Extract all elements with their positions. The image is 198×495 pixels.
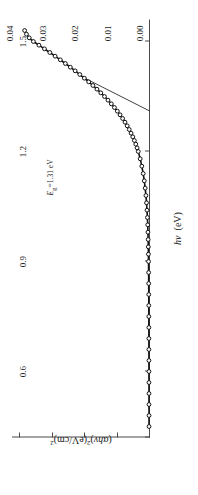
figure-canvas: 0.6 0.9 1.2 1.5 0.00 0.01 0.02 0.03 0.04 [0, 0, 198, 495]
data-curve [25, 30, 149, 426]
bandgap-value: 1.31 [46, 170, 55, 183]
plot-area: 0.6 0.9 1.2 1.5 0.00 0.01 0.02 0.03 0.04 [12, 19, 150, 437]
bandgap-annotation: Eg=1.31 eV [46, 159, 55, 195]
data-markers [23, 28, 151, 428]
x-axis-title: hν (eV) [172, 212, 183, 245]
data-plot-svg [12, 19, 150, 437]
bandgap-unit: eV [46, 159, 55, 168]
x-axis-title-symbol: hν [172, 235, 183, 244]
tauc-plot-figure: 0.6 0.9 1.2 1.5 0.00 0.01 0.02 0.03 0.04 [0, 0, 198, 495]
y-axis-title: (αhν)2(eV/cm)2 [6, 435, 156, 446]
bandgap-symbol: E [46, 190, 55, 195]
